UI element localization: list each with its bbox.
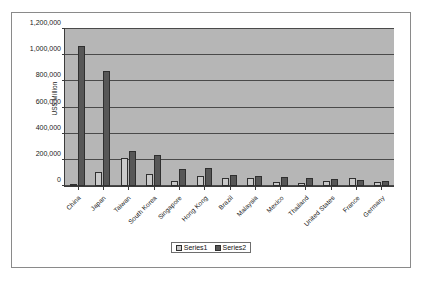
x-axis-label-cell: Hong Kong bbox=[191, 191, 216, 247]
legend-item[interactable]: Series1 bbox=[176, 244, 208, 251]
x-axis-label-cell: China bbox=[64, 191, 89, 247]
bar-series1[interactable] bbox=[247, 178, 254, 186]
x-axis-tick-mark bbox=[280, 186, 281, 190]
bar-group bbox=[65, 29, 90, 186]
x-axis-label-cell: Malaysia bbox=[242, 191, 267, 247]
x-axis-label-cell: Germany bbox=[369, 191, 394, 247]
bar-series2[interactable] bbox=[78, 46, 85, 186]
x-axis-tick-mark bbox=[204, 186, 205, 190]
x-axis-label-cell: France bbox=[343, 191, 368, 247]
bar-series1[interactable] bbox=[70, 184, 77, 186]
bar-series1[interactable] bbox=[197, 176, 204, 186]
x-axis-label-cell: Brazil bbox=[216, 191, 241, 247]
bar-series2[interactable] bbox=[129, 151, 136, 186]
x-axis-tick-label: China bbox=[64, 194, 81, 211]
x-axis-tick-mark bbox=[179, 186, 180, 190]
bar-series2[interactable] bbox=[382, 181, 389, 186]
x-axis-tick-mark bbox=[356, 186, 357, 190]
bar-series1[interactable] bbox=[298, 183, 305, 186]
x-axis-label-cell: Mexico bbox=[267, 191, 292, 247]
x-axis-tick-label: Japan bbox=[89, 194, 107, 212]
x-axis-tick-mark bbox=[78, 186, 79, 190]
bar-group bbox=[268, 29, 293, 186]
x-axis-tick-label: Taiwan bbox=[113, 194, 133, 214]
y-axis-tick-label: 200,000 bbox=[36, 149, 61, 156]
x-axis-tick-mark bbox=[255, 186, 256, 190]
x-axis-tick-mark bbox=[128, 186, 129, 190]
legend-label: Series1 bbox=[184, 244, 208, 251]
bar-group bbox=[217, 29, 242, 186]
bar-series2[interactable] bbox=[205, 168, 212, 186]
bar-group bbox=[369, 29, 394, 186]
x-axis-tick-label: France bbox=[341, 194, 361, 214]
bar-group bbox=[242, 29, 267, 186]
y-axis-tick-label: 1,200,000 bbox=[30, 19, 61, 26]
x-axis-tick-mark bbox=[381, 186, 382, 190]
bar-series1[interactable] bbox=[171, 181, 178, 186]
bar-series2[interactable] bbox=[230, 175, 237, 186]
x-axis-labels: ChinaJapanTaiwanSouth KoreaSingaporeHong… bbox=[64, 191, 394, 247]
bar-group bbox=[116, 29, 141, 186]
x-axis-tick-label: Brazil bbox=[217, 194, 234, 211]
legend-swatch-icon bbox=[176, 245, 182, 251]
y-axis-tick-label: 400,000 bbox=[36, 123, 61, 130]
bar-series2[interactable] bbox=[331, 179, 338, 186]
bar-series2[interactable] bbox=[154, 155, 161, 186]
y-axis-tick-label: 600,000 bbox=[36, 97, 61, 104]
bar-group bbox=[166, 29, 191, 186]
bar-series2[interactable] bbox=[103, 71, 110, 186]
legend-item[interactable]: Series2 bbox=[215, 244, 247, 251]
bar-group bbox=[318, 29, 343, 186]
bar-series2[interactable] bbox=[255, 176, 262, 186]
legend-label: Series2 bbox=[223, 244, 247, 251]
bar-group bbox=[192, 29, 217, 186]
bar-series1[interactable] bbox=[222, 178, 229, 186]
plot-wrapper: 0200,000400,000600,000800,0001,000,0001,… bbox=[64, 29, 394, 187]
bar-series2[interactable] bbox=[357, 180, 364, 186]
x-axis-tick-mark bbox=[305, 186, 306, 190]
bar-series2[interactable] bbox=[306, 178, 313, 186]
y-axis-tick-label: 0 bbox=[57, 176, 61, 183]
x-axis-tick-mark bbox=[103, 186, 104, 190]
bar-group bbox=[141, 29, 166, 186]
bar-group bbox=[293, 29, 318, 186]
bar-series1[interactable] bbox=[374, 182, 381, 186]
bar-series1[interactable] bbox=[146, 174, 153, 186]
bar-group bbox=[343, 29, 368, 186]
x-axis-label-cell: United States bbox=[318, 191, 343, 247]
bar-series2[interactable] bbox=[281, 177, 288, 186]
bar-series1[interactable] bbox=[323, 181, 330, 186]
x-axis-label-cell: Japan bbox=[89, 191, 114, 247]
bar-series1[interactable] bbox=[121, 158, 128, 186]
bar-series1[interactable] bbox=[95, 172, 102, 186]
x-axis-tick-label: Mexico bbox=[265, 194, 285, 214]
x-axis-tick-mark bbox=[154, 186, 155, 190]
y-axis-tick-label: 1,000,000 bbox=[30, 45, 61, 52]
legend-swatch-icon bbox=[215, 245, 221, 251]
y-axis-tick-label: 800,000 bbox=[36, 71, 61, 78]
legend-box: Series1Series2 bbox=[171, 242, 251, 253]
bar-series2[interactable] bbox=[179, 169, 186, 186]
bar-group bbox=[90, 29, 115, 186]
x-axis-tick-mark bbox=[331, 186, 332, 190]
legend: Series1Series2 bbox=[12, 242, 410, 253]
plot-area: 0200,000400,000600,000800,0001,000,0001,… bbox=[64, 29, 394, 187]
bar-series1[interactable] bbox=[349, 178, 356, 187]
chart-frame: US$ Million 0200,000400,000600,000800,00… bbox=[11, 12, 411, 268]
bar-groups bbox=[65, 29, 394, 186]
x-axis-tick-mark bbox=[230, 186, 231, 190]
bar-series1[interactable] bbox=[273, 182, 280, 186]
